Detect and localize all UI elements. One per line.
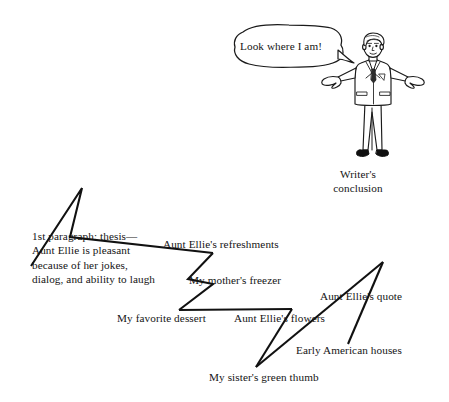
label-aunt-ellies-refreshments: Aunt Ellie's refreshments xyxy=(163,238,279,251)
label-my-mothers-freezer: My mother's freezer xyxy=(189,274,281,287)
label-my-sisters-green-thumb: My sister's green thumb xyxy=(209,371,319,384)
label-early-american-houses: Early American houses xyxy=(296,344,402,357)
character-pocket-left xyxy=(357,92,367,95)
zigzag-segment-lower-middle xyxy=(179,309,292,310)
character-necktie xyxy=(371,69,376,83)
label-thesis-paragraph: 1st paragraph: thesis—Aunt Ellie is plea… xyxy=(32,229,158,287)
character-hand-left xyxy=(322,77,341,89)
outline-zigzag-artwork xyxy=(0,0,449,402)
character-shoe-left xyxy=(357,150,369,156)
speech-bubble-text: Look where I am! xyxy=(240,40,322,53)
label-aunt-ellies-flowers: Aunt Ellie's flowers xyxy=(234,312,325,325)
character-shoe-right xyxy=(376,150,388,156)
label-aunt-ellies-quote: Aunt Ellie's quote xyxy=(320,290,402,303)
character-eye-right xyxy=(375,45,377,47)
writers-conclusion-line-1: Writer's xyxy=(340,168,376,180)
character-eye-left xyxy=(368,45,370,47)
diagram-canvas: 1st paragraph: thesis—Aunt Ellie is plea… xyxy=(0,0,449,402)
speech-bubble-tail xyxy=(338,50,354,63)
character-hand-right xyxy=(405,77,424,89)
character-pocket-right xyxy=(380,92,390,95)
label-writers-conclusion: Writer's conclusion xyxy=(318,167,398,195)
label-my-favorite-dessert: My favorite dessert xyxy=(117,312,206,325)
writers-conclusion-line-2: conclusion xyxy=(333,182,382,194)
